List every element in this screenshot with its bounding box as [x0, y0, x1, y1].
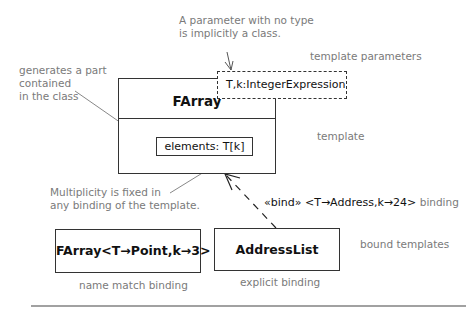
note-name-match-binding: name match binding — [79, 279, 188, 292]
note-line: contained — [19, 77, 107, 90]
part-label: elements: T[k] — [157, 140, 252, 153]
note-line: any binding of the template. — [50, 199, 200, 212]
bound-class-addresslist[interactable]: AddressList — [214, 228, 340, 271]
bind-note: binding — [420, 196, 459, 208]
class-name: AddressList — [215, 242, 339, 257]
bind-label: «bind» <T→Address,k→24> binding — [264, 196, 459, 209]
note-line: is implicitly a class. — [179, 27, 314, 40]
note-line: generates a part — [19, 64, 107, 77]
compartment-divider — [119, 118, 275, 119]
template-parameters-label: T,k:IntegerExpression — [226, 78, 346, 91]
note-explicit-binding: explicit binding — [240, 276, 320, 289]
note-multiplicity: Multiplicity is fixed in any binding of … — [50, 186, 200, 212]
bind-expression: «bind» <T→Address,k→24> — [264, 196, 416, 209]
note-template-parameters: template parameters — [310, 50, 422, 63]
note-param-no-type: A parameter with no type is implicitly a… — [179, 14, 314, 40]
note-generates-part: generates a part contained in the class — [19, 64, 107, 103]
template-parameters-box[interactable]: T,k:IntegerExpression — [217, 71, 347, 99]
note-bound-templates: bound templates — [360, 238, 449, 251]
class-name: FArray<T→Point,k→3> — [56, 243, 200, 258]
note-line: A parameter with no type — [179, 14, 314, 27]
bound-class-farray-point[interactable]: FArray<T→Point,k→3> — [55, 229, 201, 273]
part-elements[interactable]: elements: T[k] — [156, 137, 253, 156]
note-line: in the class — [19, 90, 107, 103]
note-line: Multiplicity is fixed in — [50, 186, 200, 199]
note-template: template — [317, 130, 364, 143]
